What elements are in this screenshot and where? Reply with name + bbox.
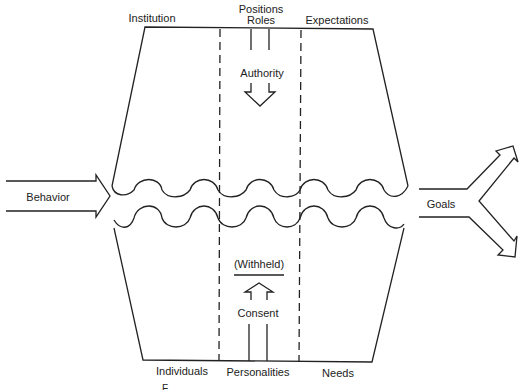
diagram-canvas <box>0 0 525 390</box>
consent-arrow-head <box>245 283 273 300</box>
label-consent: Consent <box>238 307 279 319</box>
authority-arrow-head <box>245 83 275 106</box>
label-needs: Needs <box>322 367 354 379</box>
label-expectations: Expectations <box>306 14 369 26</box>
label-individuals: Individuals <box>156 365 208 377</box>
caption-partial: F... <box>162 383 175 390</box>
upper-wavy-line <box>112 180 408 197</box>
lower-wavy-line <box>114 206 404 228</box>
label-institution: Institution <box>128 12 175 24</box>
label-roles: Roles <box>247 14 275 26</box>
lower-block-outline <box>114 228 404 362</box>
label-withheld: (Withheld) <box>234 258 284 270</box>
label-personalities: Personalities <box>227 366 290 378</box>
dashed-divider-right <box>299 30 301 362</box>
label-goals: Goals <box>427 198 456 210</box>
label-authority: Authority <box>240 67 283 79</box>
label-behavior: Behavior <box>26 191 69 203</box>
dashed-divider-left <box>219 29 220 360</box>
